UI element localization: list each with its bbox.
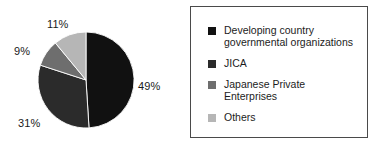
pie-slice-label-0: 49% <box>138 80 160 92</box>
pie-chart-plot-area: 49% 31% 9% 11% <box>0 0 190 157</box>
legend-swatch-japanese-private-enterprises <box>208 81 216 89</box>
legend-item-1[interactable]: JICA <box>208 57 366 69</box>
legend-item-label-0: Developing country governmental organiza… <box>224 24 353 48</box>
pie-slice-0 <box>86 32 134 128</box>
pie-slice-label-2: 9% <box>14 45 30 57</box>
legend-swatch-developing-country-governmental-organizations <box>208 27 216 35</box>
pie-slice-label-1: 31% <box>18 117 40 129</box>
legend-swatch-others <box>208 114 216 122</box>
legend-item-2[interactable]: Japanese Private Enterprises <box>208 78 366 102</box>
pie-slice-group <box>38 32 134 128</box>
legend-item-label-1: JICA <box>224 57 247 69</box>
pie-chart-svg <box>0 0 190 157</box>
legend-item-3[interactable]: Others <box>208 111 366 123</box>
legend-box: Developing country governmental organiza… <box>190 6 368 138</box>
legend-list: Developing country governmental organiza… <box>208 24 366 132</box>
legend-swatch-jica <box>208 60 216 68</box>
pie-slice-label-3: 11% <box>47 18 69 30</box>
legend-item-label-2: Japanese Private Enterprises <box>224 78 305 102</box>
legend-item-label-3: Others <box>224 111 256 123</box>
legend-item-0[interactable]: Developing country governmental organiza… <box>208 24 366 48</box>
pie-chart-figure: 49% 31% 9% 11% Developing country govern… <box>0 0 382 157</box>
